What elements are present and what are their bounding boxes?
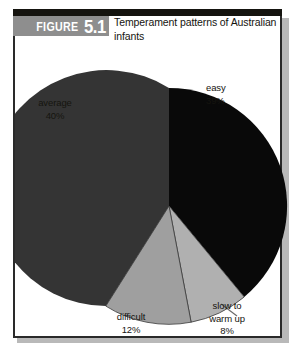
pie-label-difficult-name: difficult (117, 311, 146, 322)
pie-label-difficult: difficult 12% (100, 311, 162, 336)
pie-slice-difficult (106, 206, 191, 324)
figure-word-label: FIGURE (36, 19, 78, 34)
pie-label-difficult-percent: 12% (100, 324, 162, 337)
pie-chart (15, 16, 303, 354)
figure-frame (13, 14, 282, 338)
pie-chart-svg (15, 16, 303, 354)
figure-title: Temperament patterns of Australian infan… (114, 15, 286, 43)
slow-label-leader-line (15, 16, 303, 354)
pie-label-average-name: average (38, 97, 72, 108)
pie-label-average-percent: 40% (22, 110, 88, 123)
pie-slice-easy (169, 88, 287, 297)
pie-label-slow-line1: slow to (213, 300, 242, 311)
pie-label-slow-line2: warm up (196, 313, 258, 326)
figure-container: FIGURE 5.1 Temperament patterns of Austr… (0, 0, 303, 354)
pie-label-easy-name: easy (206, 82, 226, 93)
pie-label-easy: easy 39% (206, 82, 266, 107)
pie-label-easy-percent: 39% (206, 95, 266, 108)
figure-number-badge: FIGURE 5.1 (13, 16, 109, 36)
pie-label-average: average 40% (22, 97, 88, 122)
pie-label-slow-to-warm-up: slow to warm up 8% (196, 300, 258, 338)
pie-label-slow-percent: 8% (196, 325, 258, 338)
figure-number-label: 5.1 (84, 17, 106, 36)
